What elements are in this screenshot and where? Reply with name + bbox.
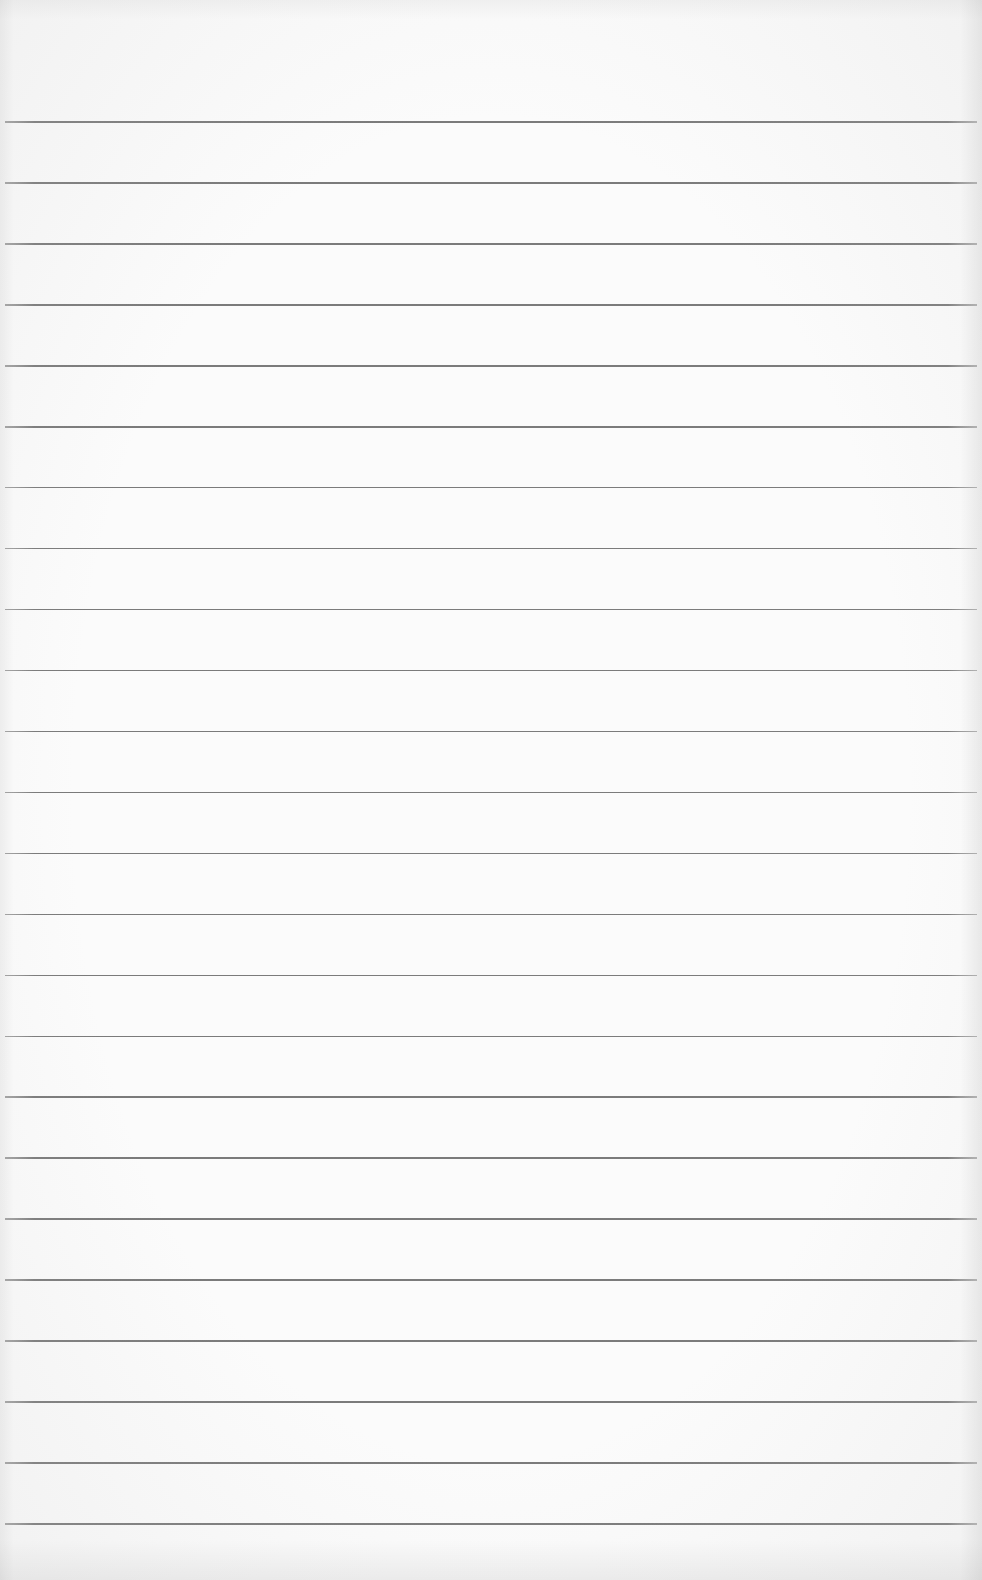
ruled-line	[5, 243, 977, 245]
ruled-line	[5, 609, 977, 611]
ruled-line	[5, 1340, 977, 1342]
ruled-line	[5, 731, 977, 733]
ruled-line	[5, 853, 977, 855]
ruled-line	[5, 1096, 977, 1098]
ruled-line	[5, 365, 977, 367]
ruled-line	[5, 1279, 977, 1281]
ruled-line	[5, 914, 977, 916]
ruled-line	[5, 1218, 977, 1220]
ruled-line	[5, 548, 977, 550]
ruled-line	[5, 182, 977, 184]
ruled-line	[5, 1401, 977, 1403]
ruled-line	[5, 487, 977, 489]
ruled-line	[5, 975, 977, 977]
ruled-line	[5, 792, 977, 794]
ruled-line	[5, 1157, 977, 1159]
ruled-line	[5, 304, 977, 306]
paper-vignette	[0, 0, 982, 1580]
ruled-line	[5, 426, 977, 428]
ruled-line	[5, 1462, 977, 1464]
ruled-line	[5, 1523, 977, 1525]
ruled-line	[5, 1036, 977, 1038]
ruled-line	[5, 121, 977, 123]
ruled-line	[5, 670, 977, 672]
ruled-paper-sheet	[0, 0, 982, 1580]
